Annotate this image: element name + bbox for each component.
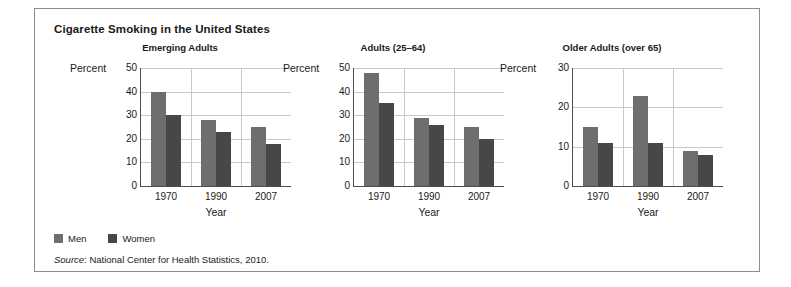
y-axis-label-2: Percent (283, 62, 319, 74)
category-divider (623, 68, 624, 186)
x-axis-title-3: Year (573, 206, 723, 218)
y-axis-label-1: Percent (70, 62, 106, 74)
bar-women-1990 (648, 143, 663, 186)
plot-area-2: 01020304050197019902007Year (353, 68, 504, 187)
y-tick-label: 30 (339, 110, 350, 120)
chart-panel-3: Older Adults (over 65)Percent01020301970… (500, 42, 722, 202)
y-tick-label: 40 (339, 87, 350, 97)
bar-men-1990 (414, 118, 429, 186)
bar-women-2007 (266, 144, 281, 186)
bar-women-1970 (166, 115, 181, 186)
x-tick-label: 2007 (468, 191, 490, 202)
bar-men-2007 (464, 127, 479, 186)
gridline (573, 68, 723, 69)
x-tick-label: 1970 (155, 191, 177, 202)
gridline (354, 68, 504, 69)
y-axis-label-3: Percent (500, 62, 536, 74)
bar-women-1970 (598, 143, 613, 186)
y-tick-label: 50 (339, 63, 350, 73)
y-tick-label: 50 (126, 63, 137, 73)
legend-label-men: Men (68, 233, 86, 244)
bar-women-1990 (429, 125, 444, 186)
bar-men-2007 (683, 151, 698, 186)
gridline (141, 68, 291, 69)
x-tick-label: 1970 (368, 191, 390, 202)
y-tick-label: 40 (126, 87, 137, 97)
legend-swatch-women-icon (108, 234, 117, 243)
bar-men-1970 (583, 127, 598, 186)
y-tick-label: 10 (126, 157, 137, 167)
plot-area-1: 01020304050197019902007Year (140, 68, 291, 187)
bar-men-1970 (364, 73, 379, 186)
category-divider (191, 68, 192, 186)
bar-men-1990 (201, 120, 216, 186)
chart-title-2: Adults (25–64) (283, 42, 503, 53)
source-label: Source (54, 254, 84, 265)
bar-men-1970 (151, 92, 166, 186)
y-tick-label: 0 (344, 181, 350, 191)
chart-panel-1: Emerging AdultsPercent010203040501970199… (70, 42, 290, 202)
plot-area-3: 0102030197019902007Year (572, 68, 723, 187)
source-note: Source: National Center for Health Stati… (54, 254, 269, 265)
x-axis-title-2: Year (354, 206, 504, 218)
chart-title-1: Emerging Adults (70, 42, 290, 53)
category-divider (673, 68, 674, 186)
category-divider (404, 68, 405, 186)
legend-item-men: Men (54, 233, 86, 244)
x-tick-label: 1970 (587, 191, 609, 202)
y-tick-label: 0 (563, 181, 569, 191)
x-tick-label: 1990 (418, 191, 440, 202)
x-tick-label: 1990 (205, 191, 227, 202)
figure-frame: Cigarette Smoking in the United States E… (34, 8, 760, 272)
x-tick-label: 2007 (687, 191, 709, 202)
y-tick-label: 0 (131, 181, 137, 191)
category-divider (454, 68, 455, 186)
legend-label-women: Women (122, 233, 155, 244)
bar-women-1990 (216, 132, 231, 186)
y-tick-label: 20 (126, 134, 137, 144)
bar-women-2007 (698, 155, 713, 186)
bar-men-2007 (251, 127, 266, 186)
x-tick-label: 1990 (637, 191, 659, 202)
gridline (573, 107, 723, 108)
category-divider (241, 68, 242, 186)
source-text: : National Center for Health Statistics,… (84, 254, 269, 265)
y-tick-label: 20 (339, 134, 350, 144)
y-tick-label: 30 (126, 110, 137, 120)
chart-title-3: Older Adults (over 65) (502, 42, 722, 53)
legend: Men Women (54, 233, 155, 244)
y-tick-label: 30 (558, 63, 569, 73)
bar-women-1970 (379, 103, 394, 186)
x-tick-label: 2007 (255, 191, 277, 202)
y-tick-label: 20 (558, 102, 569, 112)
y-tick-label: 10 (339, 157, 350, 167)
legend-swatch-men-icon (54, 234, 63, 243)
legend-item-women: Women (108, 233, 155, 244)
x-axis-title-1: Year (141, 206, 291, 218)
bar-women-2007 (479, 139, 494, 186)
figure-title: Cigarette Smoking in the United States (54, 23, 270, 35)
chart-panel-2: Adults (25–64)Percent0102030405019701990… (283, 42, 503, 202)
bar-men-1990 (633, 96, 648, 186)
y-tick-label: 10 (558, 142, 569, 152)
